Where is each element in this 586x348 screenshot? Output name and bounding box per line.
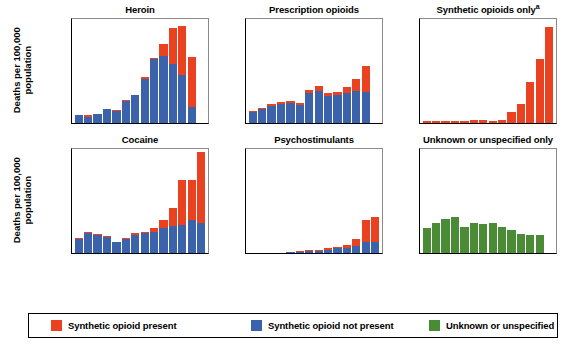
bar-psychostimulants-2010[interactable]: [296, 149, 304, 253]
bar-unknown-or-unspecified-only-2009[interactable]: [460, 149, 468, 253]
bar-segment: [159, 44, 167, 57]
bar-heroin-2011[interactable]: [131, 19, 139, 123]
bar-synthetic-opioids-only-2007[interactable]: [441, 19, 449, 123]
bar-psychostimulants-2014[interactable]: [333, 149, 341, 253]
bar-prescription-opioids-2012[interactable]: [315, 19, 323, 123]
panel-title-unknown-or-unspecified-only: Unknown or unspecified only: [419, 134, 557, 145]
bar-segment: [479, 224, 487, 253]
bar-psychostimulants-2008[interactable]: [277, 149, 285, 253]
legend-item-synthetic-opioid-present[interactable]: Synthetic opioid present: [51, 320, 176, 331]
bar-unknown-or-unspecified-only-2007[interactable]: [441, 149, 449, 253]
bar-synthetic-opioids-only-2010[interactable]: [470, 19, 478, 123]
bar-cocaine-2013[interactable]: [150, 149, 158, 253]
bar-heroin-2008[interactable]: [103, 19, 111, 123]
bar-synthetic-opioids-only-2017[interactable]: [536, 19, 544, 123]
bar-cocaine-2010[interactable]: [122, 149, 130, 253]
bar-unknown-or-unspecified-only-2011[interactable]: [479, 149, 487, 253]
bar-psychostimulants-2009[interactable]: [286, 149, 294, 253]
bar-synthetic-opioids-only-2013[interactable]: [498, 19, 506, 123]
bar-unknown-or-unspecified-only-2018[interactable]: [545, 149, 553, 253]
bar-psychostimulants-2012[interactable]: [315, 149, 323, 253]
y-tick-label: 5: [71, 217, 72, 226]
bar-prescription-opioids-2008[interactable]: [277, 19, 285, 123]
bar-cocaine-2015[interactable]: [169, 149, 177, 253]
bar-prescription-opioids-2010[interactable]: [296, 19, 304, 123]
panel-unknown-or-unspecified-only: Unknown or unspecified only2005200820112…: [359, 134, 557, 300]
bar-segment: [267, 106, 275, 123]
bar-cocaine-2007[interactable]: [93, 149, 101, 253]
bar-unknown-or-unspecified-only-2013[interactable]: [498, 149, 506, 253]
bar-prescription-opioids-2014[interactable]: [333, 19, 341, 123]
bar-heroin-2014[interactable]: [159, 19, 167, 123]
bar-cocaine-2005[interactable]: [75, 149, 83, 253]
legend-label-unknown-or-unspecified: Unknown or unspecified: [446, 320, 554, 331]
bar-heroin-2007[interactable]: [93, 19, 101, 123]
bar-segment: [315, 91, 323, 123]
bar-unknown-or-unspecified-only-2017[interactable]: [536, 149, 544, 253]
legend-item-unknown-or-unspecified[interactable]: Unknown or unspecified: [429, 320, 554, 331]
bar-synthetic-opioids-only-2015[interactable]: [517, 19, 525, 123]
bar-segment: [536, 235, 544, 253]
bar-heroin-2005[interactable]: [75, 19, 83, 123]
bar-segment: [432, 121, 440, 123]
bar-prescription-opioids-2006[interactable]: [258, 19, 266, 123]
bar-synthetic-opioids-only-2005[interactable]: [423, 19, 431, 123]
bar-unknown-or-unspecified-only-2012[interactable]: [489, 149, 497, 253]
bar-unknown-or-unspecified-only-2016[interactable]: [526, 149, 534, 253]
bar-synthetic-opioids-only-2012[interactable]: [489, 19, 497, 123]
bar-synthetic-opioids-only-2014[interactable]: [507, 19, 515, 123]
bar-psychostimulants-2005[interactable]: [249, 149, 257, 253]
bar-heroin-2013[interactable]: [150, 19, 158, 123]
bar-segment: [343, 93, 351, 123]
bar-cocaine-2008[interactable]: [103, 149, 111, 253]
bar-synthetic-opioids-only-2008[interactable]: [451, 19, 459, 123]
bar-heroin-2012[interactable]: [141, 19, 149, 123]
bar-psychostimulants-2007[interactable]: [267, 149, 275, 253]
bar-prescription-opioids-2013[interactable]: [324, 19, 332, 123]
bar-segment: [470, 223, 478, 253]
bar-cocaine-2014[interactable]: [159, 149, 167, 253]
y-axis-label: Deaths per 100,000 population: [11, 145, 33, 255]
bar-segment: [489, 223, 497, 253]
bar-prescription-opioids-2005[interactable]: [249, 19, 257, 123]
bar-segment: [489, 121, 497, 123]
chart-legend: Synthetic opioid presentSynthetic opioid…: [28, 313, 558, 338]
bar-cocaine-2011[interactable]: [131, 149, 139, 253]
bar-prescription-opioids-2015[interactable]: [343, 19, 351, 123]
bar-psychostimulants-2015[interactable]: [343, 149, 351, 253]
bar-prescription-opioids-2009[interactable]: [286, 19, 294, 123]
bar-psychostimulants-2011[interactable]: [305, 149, 313, 253]
bar-psychostimulants-2006[interactable]: [258, 149, 266, 253]
bar-segment: [526, 82, 534, 123]
bar-unknown-or-unspecified-only-2010[interactable]: [470, 149, 478, 253]
bar-series-unknown-or-unspecified-only: [420, 149, 556, 253]
bar-prescription-opioids-2011[interactable]: [305, 19, 313, 123]
bar-unknown-or-unspecified-only-2008[interactable]: [451, 149, 459, 253]
bar-synthetic-opioids-only-2009[interactable]: [460, 19, 468, 123]
bar-synthetic-opioids-only-2011[interactable]: [479, 19, 487, 123]
bar-heroin-2015[interactable]: [169, 19, 177, 123]
bar-unknown-or-unspecified-only-2006[interactable]: [432, 149, 440, 253]
bar-heroin-2009[interactable]: [112, 19, 120, 123]
bar-cocaine-2006[interactable]: [84, 149, 92, 253]
bar-prescription-opioids-2007[interactable]: [267, 19, 275, 123]
bar-heroin-2010[interactable]: [122, 19, 130, 123]
bar-unknown-or-unspecified-only-2015[interactable]: [517, 149, 525, 253]
bar-heroin-2006[interactable]: [84, 19, 92, 123]
bar-cocaine-2009[interactable]: [112, 149, 120, 253]
bar-segment: [451, 217, 459, 253]
bar-segment: [141, 79, 149, 123]
bar-synthetic-opioids-only-2016[interactable]: [526, 19, 534, 123]
bar-psychostimulants-2013[interactable]: [324, 149, 332, 253]
bar-segment: [517, 234, 525, 253]
bar-segment: [479, 120, 487, 123]
legend-swatch-synthetic-opioid-present: [51, 320, 62, 331]
bar-unknown-or-unspecified-only-2014[interactable]: [507, 149, 515, 253]
legend-item-synthetic-opioid-not-present[interactable]: Synthetic opioid not present: [251, 320, 393, 331]
bar-segment: [75, 239, 83, 253]
bar-synthetic-opioids-only-2018[interactable]: [545, 19, 553, 123]
bar-unknown-or-unspecified-only-2005[interactable]: [423, 149, 431, 253]
bar-cocaine-2012[interactable]: [141, 149, 149, 253]
bar-synthetic-opioids-only-2006[interactable]: [432, 19, 440, 123]
bar-segment: [84, 117, 92, 123]
